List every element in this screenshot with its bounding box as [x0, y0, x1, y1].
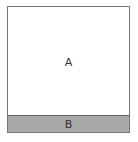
region-a: A: [8, 7, 129, 117]
region-b-label: B: [65, 118, 73, 131]
region-b: B: [8, 115, 129, 132]
outer-box: A B: [7, 6, 130, 133]
region-a-label: A: [65, 56, 73, 69]
